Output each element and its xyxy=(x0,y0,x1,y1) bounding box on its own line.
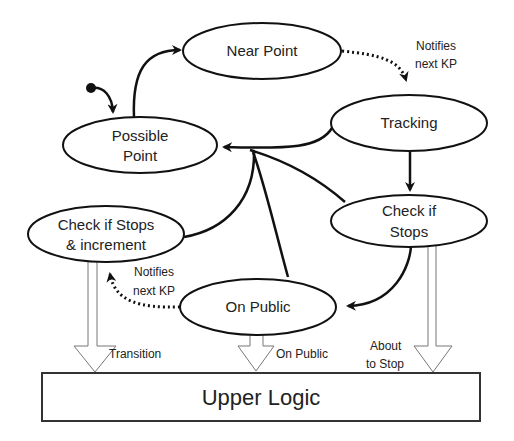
edge-checkifstops-to-possible xyxy=(250,150,345,202)
node-tracking: Tracking xyxy=(331,95,487,151)
label-notifies-bottom-line1: Notifies xyxy=(134,265,174,279)
hollow-arrow-about-to-stop xyxy=(414,246,452,372)
label-about-to-stop-line2: to Stop xyxy=(366,357,404,371)
node-check-if-stops: Check if Stops xyxy=(331,195,487,247)
edge-near-to-tracking xyxy=(342,51,406,80)
node-possible-point-line2: Point xyxy=(123,147,158,164)
label-notifies-top-line2: next KP xyxy=(415,57,457,71)
edge-onpublic-to-possible xyxy=(253,152,288,277)
label-about-to-stop-line1: About xyxy=(370,339,402,353)
node-check-if-stops-line1: Check if xyxy=(382,202,437,219)
edge-checkifstops-to-onpublic xyxy=(348,246,411,306)
state-diagram: Near Point Tracking Possible Point Check… xyxy=(0,0,514,441)
node-check-if-stops-increment: Check if Stops & increment xyxy=(28,206,184,262)
node-near-point-label: Near Point xyxy=(227,42,299,59)
edge-possible-to-near xyxy=(134,50,180,118)
label-transition: Transition xyxy=(109,347,161,361)
node-check-increment-line1: Check if Stops xyxy=(58,216,155,233)
node-check-increment-line2: & increment xyxy=(66,236,147,253)
node-near-point: Near Point xyxy=(183,23,341,79)
node-possible-point: Possible Point xyxy=(63,117,217,173)
node-upper-logic: Upper Logic xyxy=(42,373,480,421)
node-possible-point-line1: Possible xyxy=(112,127,169,144)
node-check-if-stops-line2: Stops xyxy=(390,223,428,240)
node-upper-logic-label: Upper Logic xyxy=(202,385,321,410)
label-on-public: On Public xyxy=(276,347,328,361)
node-on-public: On Public xyxy=(180,279,336,335)
node-tracking-label: Tracking xyxy=(381,114,438,131)
start-node xyxy=(86,83,113,112)
edge-tracking-to-possible xyxy=(224,128,332,148)
label-notifies-top-line1: Notifies xyxy=(416,39,456,53)
node-on-public-label: On Public xyxy=(225,298,291,315)
label-notifies-bottom-line2: next KP xyxy=(133,284,175,298)
